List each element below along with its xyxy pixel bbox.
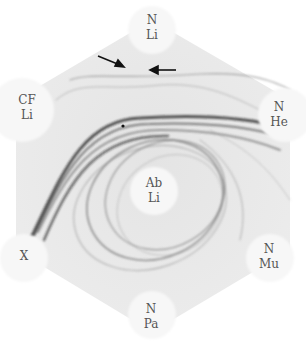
label-center: Ab Li — [139, 176, 169, 206]
label-upper-right: N He — [264, 100, 294, 130]
label-lower-right: N Mu — [254, 242, 284, 272]
track-image — [0, 0, 306, 350]
label-bottom: N Pa — [136, 302, 166, 332]
label-top: N Li — [138, 13, 166, 43]
label-left: X — [12, 249, 36, 264]
label-upper-left: CF Li — [12, 93, 42, 123]
